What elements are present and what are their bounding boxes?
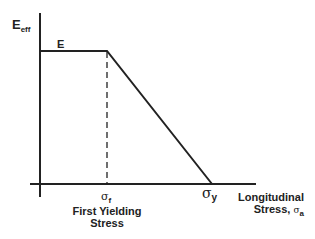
sigma-y-main: σ xyxy=(202,185,212,201)
sigma-y-sub: y xyxy=(212,192,218,203)
x-axis-label-line1: Longitudinal xyxy=(234,191,304,203)
sigma-y-label: σy xyxy=(202,187,217,204)
plateau-label: E xyxy=(57,38,64,50)
y-axis-label: Eeff xyxy=(12,19,30,36)
x-axis-label-text: Stress, xyxy=(254,203,294,215)
x-axis-label: Longitudinal Stress, σa xyxy=(234,191,304,220)
first-yield-line2: Stress xyxy=(69,217,145,229)
y-axis-label-main: E xyxy=(12,17,21,32)
first-yield-line1: First Yielding xyxy=(69,205,145,217)
x-axis-label-sub: a xyxy=(300,209,304,218)
eeff-curve xyxy=(40,51,212,184)
diagram-canvas: Eeff E σf First Yielding Stress σy Longi… xyxy=(0,0,315,239)
first-yield-label: First Yielding Stress xyxy=(69,205,145,229)
x-axis-label-line2: Stress, σa xyxy=(234,203,304,220)
sigma-f-sub: f xyxy=(109,196,112,205)
y-axis-label-sub: eff xyxy=(21,25,31,34)
sigma-f-main: σ xyxy=(101,190,109,203)
